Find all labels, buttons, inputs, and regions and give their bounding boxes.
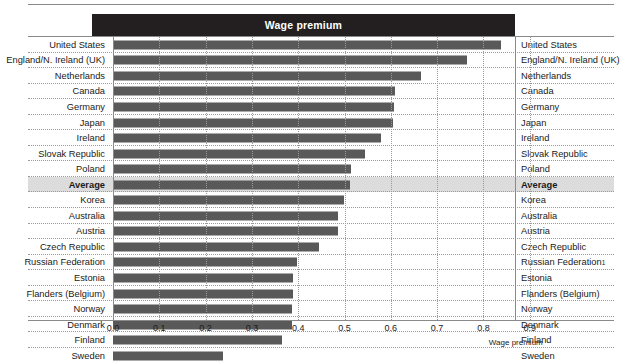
row-label-left: Slovak Republic	[28, 146, 108, 162]
row-label-left: United States	[28, 37, 108, 53]
row-label-left: Canada	[28, 84, 108, 100]
bar-cell	[113, 115, 515, 131]
x-tick-label: 0.7	[431, 323, 444, 333]
chart-body: United StatesUnited StatesEngland/N. Ire…	[0, 37, 642, 320]
table-row: United StatesUnited States	[0, 37, 642, 53]
row-label-right-text: Ireland	[521, 133, 549, 143]
bar	[113, 258, 297, 267]
bar-cell	[113, 348, 515, 362]
row-label-right-text: Russian Federation	[521, 257, 602, 267]
bar-cell	[113, 99, 515, 115]
table-row: NorwayNorway	[0, 301, 642, 317]
bar-cell	[113, 301, 515, 317]
bar-cell	[113, 286, 515, 302]
row-label-right: United States	[521, 37, 616, 53]
table-row: Flanders (Belgium)Flanders (Belgium)	[0, 286, 642, 302]
row-label-right-text: Czech Republic	[521, 242, 586, 252]
row-label-left: Germany	[28, 99, 108, 115]
row-label-right-text: Australia	[521, 211, 557, 221]
row-label-right-text: Poland	[521, 164, 550, 174]
row-label-left: Korea	[28, 192, 108, 208]
row-label-left: Sweden	[28, 348, 108, 362]
row-label-left: Netherlands	[28, 68, 108, 84]
x-axis-line	[28, 320, 515, 321]
row-label-right: Estonia	[521, 270, 616, 286]
table-row: AustraliaAustralia	[0, 208, 642, 224]
bar	[113, 87, 395, 96]
row-label-right: Average	[521, 177, 616, 193]
bar	[113, 40, 501, 49]
row-label-left: Poland	[28, 161, 108, 177]
table-row: PolandPoland	[0, 161, 642, 177]
x-axis-title: Wage premium	[489, 338, 543, 347]
row-label-right-text: Average	[521, 180, 557, 190]
x-tick-label: 0.3	[246, 323, 259, 333]
row-label-right-text: Canada	[521, 86, 554, 96]
bar-cell	[113, 146, 515, 162]
top-rule	[28, 4, 614, 5]
bar-cell	[113, 130, 515, 146]
bar	[113, 289, 293, 298]
x-tick-label: 0.9	[523, 323, 536, 333]
table-row: AustriaAustria	[0, 224, 642, 240]
row-label-right: Japan	[521, 115, 616, 131]
row-label-right: Germany	[521, 99, 616, 115]
row-label-right-text: England/N. Ireland (UK)	[521, 55, 620, 65]
table-row: Czech RepublicCzech Republic	[0, 239, 642, 255]
bar	[113, 71, 421, 80]
row-label-right: Russian Federation1	[521, 255, 616, 271]
row-label-left: Australia	[28, 208, 108, 224]
row-label-right: Poland	[521, 161, 616, 177]
table-row: IrelandIreland	[0, 130, 642, 146]
row-label-right: Netherlands	[521, 68, 616, 84]
table-row: England/N. Ireland (UK)England/N. Irelan…	[0, 53, 642, 69]
table-row: EstoniaEstonia	[0, 270, 642, 286]
bar	[113, 336, 282, 345]
row-label-right: Czech Republic	[521, 239, 616, 255]
x-tick-label: 0.5	[338, 323, 351, 333]
bar	[113, 102, 394, 111]
bar	[113, 211, 338, 220]
row-label-left: Japan	[28, 115, 108, 131]
bar-cell	[113, 84, 515, 100]
bar-cell	[113, 332, 515, 348]
bar	[113, 165, 351, 174]
row-label-right: England/N. Ireland (UK)	[521, 53, 616, 69]
table-row: AverageAverage	[0, 177, 642, 193]
row-label-left: Finland	[28, 332, 108, 348]
row-label-right-text: Norway	[521, 304, 553, 314]
bar	[113, 305, 292, 314]
row-label-left: Ireland	[28, 130, 108, 146]
row-label-right: Sweden	[521, 348, 616, 362]
row-label-right-text: Germany	[521, 102, 559, 112]
bar	[113, 118, 393, 127]
row-label-right: Ireland	[521, 130, 616, 146]
bar	[113, 351, 223, 360]
bar-cell	[113, 208, 515, 224]
bar-cell	[113, 224, 515, 240]
bar-cell	[113, 161, 515, 177]
row-label-left: Austria	[28, 224, 108, 240]
chart-page: Wage premium United StatesUnited StatesE…	[0, 0, 642, 362]
x-tick-label: 0.1	[153, 323, 166, 333]
row-label-left: Russian Federation	[28, 255, 108, 271]
row-label-left: Czech Republic	[28, 239, 108, 255]
row-label-right-text: Flanders (Belgium)	[521, 289, 600, 299]
bar	[113, 149, 365, 158]
bar-cell	[113, 37, 515, 53]
x-tick-label: 0.6	[385, 323, 398, 333]
bar-cell	[113, 53, 515, 69]
table-row: SwedenSweden	[0, 348, 642, 362]
row-label-right-text: Austria	[521, 226, 550, 236]
chart-header-bar: Wage premium	[92, 14, 515, 36]
table-row: NetherlandsNetherlands	[0, 68, 642, 84]
table-row: CanadaCanada	[0, 84, 642, 100]
table-row: Russian FederationRussian Federation1	[0, 255, 642, 271]
chart-header-title: Wage premium	[265, 19, 342, 31]
x-tick-label: 0.8	[477, 323, 490, 333]
x-tick-label: 0.4	[292, 323, 305, 333]
bar	[113, 242, 319, 251]
row-label-right-text: United States	[521, 40, 577, 50]
bar-cell	[113, 68, 515, 84]
row-label-right: Norway	[521, 301, 616, 317]
